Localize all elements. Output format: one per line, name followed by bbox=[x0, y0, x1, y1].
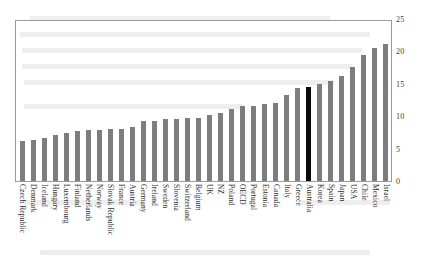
x-axis-category-labels: Czech RepublicDenmarkIcelandHungaryLuxem… bbox=[15, 183, 392, 267]
x-label-slot: Sweden bbox=[163, 183, 168, 267]
x-label-slot: USA bbox=[350, 183, 355, 267]
bar-australia bbox=[306, 87, 311, 181]
x-axis-label-portugal: Portugal bbox=[250, 184, 258, 210]
x-axis-label-italy: Italy bbox=[283, 184, 291, 198]
x-axis-label-estonia: Estonia bbox=[261, 184, 269, 207]
bar-slovenia bbox=[174, 119, 179, 181]
bar-iceland bbox=[42, 138, 47, 181]
x-axis-label-belgium: Belgium bbox=[195, 184, 203, 211]
bar-slovak-republic bbox=[108, 129, 113, 181]
x-axis-label-sweden: Sweden bbox=[161, 184, 169, 208]
x-label-slot: Luxembourg bbox=[63, 183, 68, 267]
bar-italy bbox=[284, 95, 289, 181]
x-axis-label-mexico: Mexico bbox=[371, 184, 379, 208]
chart-page: 0510152025 Czech RepublicDenmarkIcelandH… bbox=[0, 0, 428, 267]
x-axis-label-austria: Austria bbox=[128, 184, 136, 207]
x-axis-label-poland: Poland bbox=[228, 184, 236, 205]
x-label-slot: Denmark bbox=[30, 183, 35, 267]
bar-hungary bbox=[53, 135, 58, 181]
bar-chile bbox=[361, 55, 366, 181]
x-label-slot: UK bbox=[207, 183, 212, 267]
bar-nz bbox=[218, 113, 223, 181]
x-axis-label-nz: NZ bbox=[217, 184, 225, 194]
x-label-slot: Greece bbox=[295, 183, 300, 267]
x-label-slot: Ireland bbox=[152, 183, 157, 267]
x-axis-label-australia: Australia bbox=[305, 184, 313, 212]
x-label-slot: Japan bbox=[339, 183, 344, 267]
y-axis-ticks: 0510152025 bbox=[396, 20, 426, 182]
x-axis-label-oecd: OECD bbox=[239, 184, 247, 205]
x-label-slot: Slovenia bbox=[174, 183, 179, 267]
bar-france bbox=[119, 129, 124, 181]
x-label-slot: Estonia bbox=[262, 183, 267, 267]
x-label-slot: Hungary bbox=[52, 183, 57, 267]
x-axis-label-france: France bbox=[117, 184, 125, 205]
bar-uk bbox=[207, 115, 212, 181]
x-label-slot: Norway bbox=[96, 183, 101, 267]
x-axis-label-slovenia: Slovenia bbox=[172, 184, 180, 211]
x-axis-label-denmark: Denmark bbox=[29, 184, 37, 213]
bar-belgium bbox=[196, 118, 201, 182]
x-axis-label-israel: Israel bbox=[382, 184, 390, 201]
x-axis-label-korea: Korea bbox=[316, 184, 324, 203]
bar-portugal bbox=[251, 106, 256, 181]
bar-switzerland bbox=[185, 118, 190, 181]
y-tick-label-5: 5 bbox=[396, 146, 400, 154]
bar-series bbox=[16, 21, 391, 181]
y-tick-label-0: 0 bbox=[396, 178, 400, 186]
x-label-slot: Mexico bbox=[373, 183, 378, 267]
bar-mexico bbox=[372, 48, 377, 181]
x-label-slot: Korea bbox=[317, 183, 322, 267]
bar-netherlands bbox=[86, 130, 91, 181]
x-axis-label-netherlands: Netherlands bbox=[84, 184, 92, 221]
x-axis-label-usa: USA bbox=[349, 184, 357, 199]
x-axis-label-germany: Germany bbox=[139, 184, 147, 213]
x-label-slot: Austria bbox=[129, 183, 134, 267]
bar-usa bbox=[350, 67, 355, 181]
x-label-slot: France bbox=[118, 183, 123, 267]
x-axis-label-chile: Chile bbox=[360, 184, 368, 201]
bar-luxembourg bbox=[64, 133, 69, 181]
x-label-slot: Poland bbox=[229, 183, 234, 267]
x-label-slot: Chile bbox=[361, 183, 366, 267]
bar-sweden bbox=[163, 119, 168, 181]
bar-spain bbox=[328, 81, 333, 181]
x-label-slot: Spain bbox=[328, 183, 333, 267]
x-label-slot: Czech Republic bbox=[19, 183, 24, 267]
x-axis-label-finland: Finland bbox=[73, 184, 81, 208]
bar-norway bbox=[97, 130, 102, 181]
plot-area bbox=[15, 20, 392, 182]
x-label-slot: Italy bbox=[284, 183, 289, 267]
y-tick-label-10: 10 bbox=[396, 113, 404, 121]
x-label-slot: Finland bbox=[74, 183, 79, 267]
x-axis-label-luxembourg: Luxembourg bbox=[62, 184, 70, 224]
bar-korea bbox=[317, 84, 322, 181]
x-label-slot: NZ bbox=[218, 183, 223, 267]
bar-chart: 0510152025 Czech RepublicDenmarkIcelandH… bbox=[0, 0, 428, 267]
x-label-slot: Portugal bbox=[251, 183, 256, 267]
bar-germany bbox=[141, 121, 146, 181]
bar-canada bbox=[273, 103, 278, 181]
x-axis-label-hungary: Hungary bbox=[51, 184, 59, 211]
bar-estonia bbox=[262, 104, 267, 181]
bar-oecd bbox=[240, 106, 245, 181]
bar-denmark bbox=[31, 140, 36, 181]
x-label-slot: Canada bbox=[273, 183, 278, 267]
x-label-slot: Iceland bbox=[41, 183, 46, 267]
bar-israel bbox=[383, 44, 388, 181]
x-axis-label-czech-republic: Czech Republic bbox=[18, 184, 26, 233]
x-axis-label-japan: Japan bbox=[338, 184, 346, 202]
x-axis-label-greece: Greece bbox=[294, 184, 302, 206]
x-axis-label-ireland: Ireland bbox=[150, 184, 158, 206]
x-label-slot: Israel bbox=[384, 183, 389, 267]
x-axis-label-canada: Canada bbox=[272, 184, 280, 207]
bar-poland bbox=[229, 109, 234, 181]
x-axis-label-switzerland: Switzerland bbox=[183, 184, 191, 221]
x-label-slot: Slovak Republic bbox=[107, 183, 112, 267]
x-label-slot: OECD bbox=[240, 183, 245, 267]
x-label-slot: Australia bbox=[306, 183, 311, 267]
x-label-slot: Belgium bbox=[196, 183, 201, 267]
y-tick-label-25: 25 bbox=[396, 16, 404, 24]
x-axis-label-slovak-republic: Slovak Republic bbox=[106, 184, 114, 235]
bar-japan bbox=[339, 76, 344, 181]
